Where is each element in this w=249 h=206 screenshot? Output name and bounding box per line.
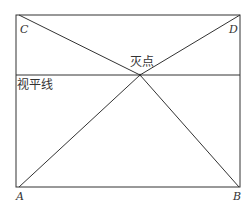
label-a: A xyxy=(16,191,24,202)
label-b: B xyxy=(233,191,241,202)
label-vanishing-point: 灭点 xyxy=(130,56,154,68)
vanishing-point-marker xyxy=(139,74,141,76)
line-d-to-vp xyxy=(140,15,240,75)
label-c: C xyxy=(20,24,28,35)
line-c-to-vp xyxy=(19,15,140,75)
label-horizon-line: 视平线 xyxy=(17,79,53,91)
frame-rectangle xyxy=(16,15,240,187)
line-b-to-vp xyxy=(140,75,239,187)
label-d: D xyxy=(229,24,238,35)
perspective-diagram xyxy=(0,0,249,206)
